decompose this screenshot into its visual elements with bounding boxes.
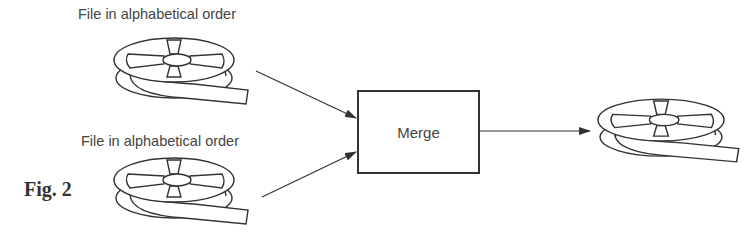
arrow-input2-to-merge xyxy=(262,152,356,197)
input2-label: File in alphabetical order xyxy=(81,133,239,149)
input-reel-1-icon xyxy=(114,38,248,104)
output-reel-icon xyxy=(598,99,739,162)
input1-label: File in alphabetical order xyxy=(78,6,236,22)
input-reel-2-icon xyxy=(114,158,248,224)
figure-label: Fig. 2 xyxy=(24,178,72,201)
merge-box: Merge xyxy=(357,90,480,174)
arrow-input1-to-merge xyxy=(256,71,356,118)
merge-label: Merge xyxy=(397,124,440,141)
